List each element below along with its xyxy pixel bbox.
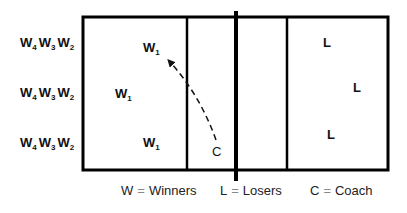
legend-equals: = [231, 183, 239, 198]
waiting-line-row-1: W4W3W2 [20, 35, 75, 52]
waiting-line-label: W4W3W2 [20, 135, 75, 152]
loser-player-middle: L [353, 80, 361, 95]
legend-item-winners: W=Winners [121, 183, 197, 198]
winner-player-middle: W1 [115, 86, 132, 103]
legend-value: Coach [335, 183, 373, 198]
waiting-line-row-2: W4W3W2 [20, 85, 75, 102]
coach-marker: C [212, 144, 221, 159]
waiting-line-row-3: W4W3W2 [20, 135, 75, 152]
loser-player-bottom: L [327, 127, 335, 142]
waiting-line-label: W4W3W2 [20, 85, 75, 102]
legend-key: C [310, 183, 319, 198]
legend-equals: = [323, 183, 331, 198]
legend-value: Winners [149, 183, 197, 198]
legend-item-coach: C=Coach [310, 183, 373, 198]
legend-value: Losers [243, 183, 282, 198]
legend-key: L [220, 183, 227, 198]
legend-key: W [121, 183, 133, 198]
winner-player-bottom: W1 [143, 135, 160, 152]
winner-player-top: W1 [143, 40, 160, 57]
legend: W=Winners L=Losers C=Coach [0, 183, 407, 203]
coach-toss-arrow [170, 62, 216, 140]
waiting-line-label: W4W3W2 [20, 35, 75, 52]
legend-item-losers: L=Losers [220, 183, 282, 198]
volleyball-court-diagram: W4W3W2 W4W3W2 W4W3W2 W1 W1 W1 C L L L [0, 0, 407, 213]
loser-player-top: L [323, 35, 331, 50]
legend-equals: = [137, 183, 145, 198]
court-svg: W4W3W2 W4W3W2 W4W3W2 W1 W1 W1 C L L L [0, 0, 407, 213]
